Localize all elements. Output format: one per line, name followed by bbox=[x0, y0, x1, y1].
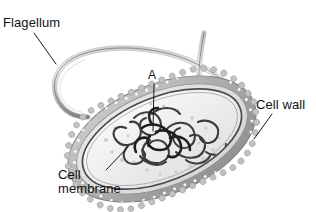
leader-line-cell-wall bbox=[254, 114, 272, 139]
label-cell-membrane: Cellmembrane bbox=[58, 168, 121, 196]
label-cell-wall: Cell wall bbox=[256, 98, 305, 112]
label-pointer-a: A bbox=[148, 68, 156, 82]
label-flagellum: Flagellum bbox=[3, 16, 60, 30]
figure-canvas: Flagellum A Cell wall Cellmembrane bbox=[0, 0, 316, 212]
label-cell-membrane-line2: membrane bbox=[58, 182, 121, 196]
leader-line-flagellum bbox=[34, 33, 56, 64]
label-cell-membrane-line1: Cell bbox=[58, 167, 81, 182]
